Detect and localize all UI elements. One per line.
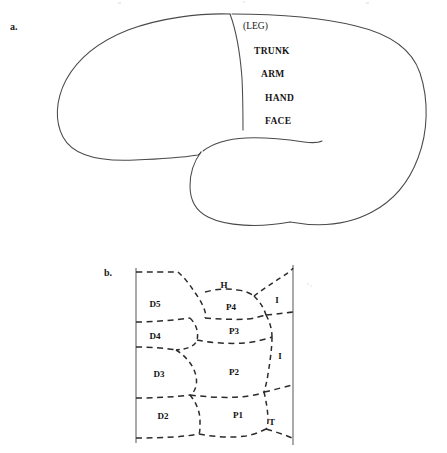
border-p2-p1 bbox=[190, 392, 264, 397]
temporal-lobe-outline bbox=[190, 152, 290, 225]
border-d2-bottom bbox=[136, 434, 199, 438]
border-p4-p3 bbox=[205, 315, 266, 319]
label-hand: HAND bbox=[265, 93, 294, 103]
region-label-i-upper: I bbox=[275, 295, 279, 305]
panel-a-letter: a. bbox=[10, 21, 18, 32]
border-p1-bottom bbox=[199, 429, 266, 437]
region-label-p1: P1 bbox=[233, 410, 243, 420]
panel-b-letter: b. bbox=[104, 267, 113, 278]
scientific-figure: a. (LEG) TRUNK ARM HAND FACE bbox=[0, 0, 447, 453]
label-arm: ARM bbox=[261, 69, 285, 79]
region-label-d4: D4 bbox=[150, 331, 161, 341]
region-label-p3: P3 bbox=[229, 326, 239, 336]
region-label-d2: D2 bbox=[158, 411, 169, 421]
somatotopy-divider bbox=[230, 14, 243, 130]
region-label-p2: P2 bbox=[229, 367, 239, 377]
border-i-upper-lower bbox=[266, 312, 293, 315]
label-face: FACE bbox=[265, 116, 291, 126]
region-label-d5: D5 bbox=[150, 299, 161, 309]
border-d4-d3 bbox=[136, 347, 176, 350]
cortex-outline bbox=[57, 14, 230, 160]
region-label-h: H bbox=[220, 280, 227, 290]
border-i-t bbox=[264, 385, 292, 392]
panel-a-group bbox=[57, 14, 426, 226]
border-h-i bbox=[254, 268, 293, 296]
border-t-bottom bbox=[266, 429, 292, 438]
border-d2-p1 bbox=[190, 395, 200, 434]
border-h-p4 bbox=[205, 289, 254, 296]
border-d5-p4 bbox=[178, 272, 206, 318]
border-p4-i bbox=[254, 296, 266, 315]
sylvian-fissure bbox=[203, 138, 322, 151]
border-d4-p3 bbox=[176, 318, 198, 350]
label-leg: (LEG) bbox=[243, 21, 268, 32]
border-p3-i bbox=[266, 315, 272, 337]
border-p3-p2 bbox=[197, 337, 272, 343]
border-p2-i bbox=[264, 337, 272, 392]
region-label-d3: D3 bbox=[154, 369, 165, 379]
border-d3-d2 bbox=[136, 395, 190, 398]
label-trunk: TRUNK bbox=[254, 46, 290, 56]
border-d5-d4 bbox=[136, 318, 190, 322]
border-d3-p2 bbox=[176, 350, 197, 395]
figure-root: a. (LEG) TRUNK ARM HAND FACE bbox=[0, 0, 447, 453]
scan-artifacts bbox=[118, 1, 369, 287]
region-label-t: T bbox=[269, 417, 275, 427]
region-label-i-lower: I bbox=[278, 351, 282, 361]
region-label-p4: P4 bbox=[226, 302, 236, 312]
border-p1-t bbox=[264, 392, 268, 429]
